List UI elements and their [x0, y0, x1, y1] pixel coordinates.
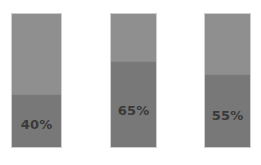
bar-2: 65%: [110, 13, 157, 148]
bar-2-remaining-segment: [111, 14, 156, 61]
bar-3-remaining-segment: [205, 14, 250, 74]
bar-3: 55%: [204, 13, 251, 148]
bar-1: 40%: [11, 13, 62, 148]
bar-2-value-label: 65%: [111, 104, 156, 117]
bar-chart: 40% 65% 55%: [0, 0, 261, 165]
bar-1-value-label: 40%: [12, 118, 61, 131]
bar-1-filled-segment: 40%: [12, 94, 61, 147]
bar-1-remaining-segment: [12, 14, 61, 94]
bar-2-filled-segment: 65%: [111, 61, 156, 147]
caption-strip: [0, 151, 261, 165]
bar-3-value-label: 55%: [205, 109, 250, 122]
bar-3-filled-segment: 55%: [205, 74, 250, 147]
